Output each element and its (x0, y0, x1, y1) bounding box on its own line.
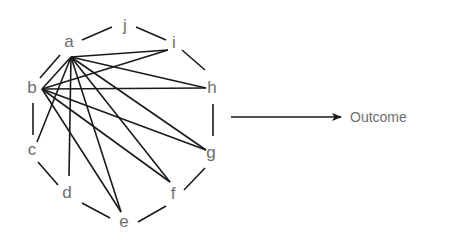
node-d: d (62, 183, 71, 202)
edge-a-i (71, 50, 168, 57)
node-c: c (28, 140, 37, 159)
node-i: i (172, 33, 176, 52)
node-a: a (64, 32, 74, 51)
node-e: e (119, 212, 128, 231)
ring-edge (82, 203, 110, 218)
ring-edge (38, 162, 58, 185)
edge-b-g (42, 89, 206, 150)
node-labels: abcdefghij (27, 16, 216, 231)
ring-edges (33, 27, 213, 222)
edge-a-e (71, 57, 121, 212)
outcome-label: Outcome (350, 109, 407, 125)
ring-edge (182, 50, 205, 70)
network-diagram: abcdefghij Outcome (0, 0, 453, 245)
edge-b-i (42, 50, 168, 89)
edge-b-e (42, 89, 121, 212)
node-j: j (122, 16, 127, 35)
edge-a-c (37, 57, 71, 142)
ring-edge (138, 206, 166, 222)
edge-a-g (71, 57, 206, 150)
node-g: g (206, 143, 215, 162)
ring-edge (40, 55, 60, 78)
ring-edge (82, 27, 112, 40)
node-b: b (27, 78, 36, 97)
node-f: f (171, 184, 176, 203)
edge-a-d (69, 57, 71, 176)
edge-b-h (42, 88, 206, 89)
ring-edge (184, 168, 205, 190)
ring-edge (136, 27, 166, 40)
node-h: h (207, 78, 216, 97)
